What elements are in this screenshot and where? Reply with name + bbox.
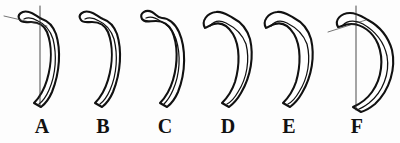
rib-shape-e <box>265 12 313 107</box>
panel-label-a: A <box>25 113 59 139</box>
rib-outline-e <box>265 12 313 107</box>
rib-shape-d <box>204 12 252 107</box>
rib-shape-f <box>328 6 393 112</box>
panel-label-row: A B C D E F <box>0 113 400 143</box>
panel-label-f: F <box>340 113 374 139</box>
panel-label-d: D <box>211 113 245 139</box>
panel-label-b: B <box>86 113 120 139</box>
rib-outline-f <box>337 13 393 112</box>
rib-outline-d <box>204 12 252 107</box>
rib-outline-c <box>141 11 184 107</box>
rib-shape-a <box>4 6 59 107</box>
rib-shape-c <box>141 11 184 107</box>
panel-label-c: C <box>148 113 182 139</box>
rib-outline-b <box>80 12 120 107</box>
rib-shape-b <box>80 12 120 107</box>
rib-outline-a <box>19 12 59 107</box>
panel-label-e: E <box>272 113 306 139</box>
rib-figure: A B C D E F <box>0 0 400 143</box>
